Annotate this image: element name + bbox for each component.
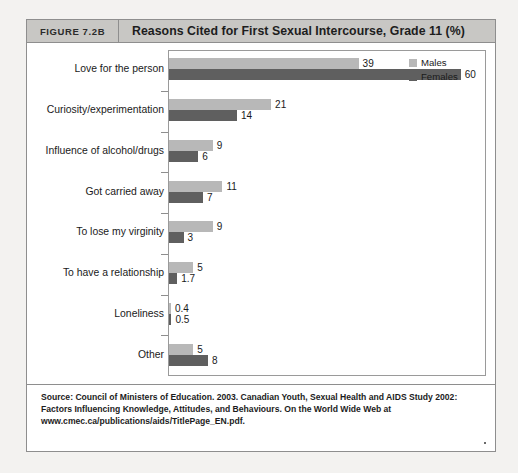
bar-pair: 51.7 [169,262,203,284]
legend-label-females: Females [421,71,458,82]
chart-legend: Males Females [409,57,458,82]
bar-value-label: 0.4 [175,303,189,314]
bar-group: Got carried away117 [27,172,486,213]
bar-value-label: 0.5 [175,314,189,325]
axis-tick [161,295,168,296]
category-label: Got carried away [4,186,164,197]
bar-males: 9 [169,221,222,232]
bar-males: 0.4 [169,303,189,314]
bar-value-label: 3 [188,232,194,243]
axis-tick [161,132,168,133]
bar-value-label: 8 [212,355,218,366]
source-note: Source: Council of Ministers of Educatio… [41,391,481,428]
bar-females: 7 [169,192,237,203]
bar-rect [169,303,171,314]
bar-females: 3 [169,232,222,243]
bar-rows: Love for the person3960Curiosity/experim… [27,50,486,376]
bar-group: To lose my virginity93 [27,213,486,254]
category-label: Loneliness [4,308,164,319]
bar-females: 8 [169,355,217,366]
axis-tick [161,91,168,92]
bar-value-label: 1.7 [181,273,195,284]
bar-value-label: 14 [241,110,252,121]
bar-group: Influence of alcohol/drugs96 [27,132,486,173]
bar-females: 14 [169,110,286,121]
bar-value-label: 5 [197,262,203,273]
bar-rect [169,273,177,284]
bar-group: Other58 [27,335,486,376]
figure-number: FIGURE 7.2B [27,20,119,42]
bar-rect [169,314,171,325]
bar-value-label: 9 [217,140,223,151]
legend-swatch-females-icon [409,73,417,81]
legend-swatch-males-icon [409,59,417,67]
bar-rect [169,355,208,366]
bar-rect [169,192,203,203]
category-label: Curiosity/experimentation [4,104,164,115]
bar-pair: 96 [169,140,222,162]
bar-pair: 93 [169,221,222,243]
bar-females: 6 [169,151,222,162]
bar-rect [169,232,184,243]
bar-value-label: 11 [226,181,236,192]
bar-value-label: 60 [465,69,476,80]
bar-value-label: 21 [275,99,286,110]
bar-rect [169,58,359,69]
legend-item-males: Males [409,57,458,68]
category-label: To lose my virginity [4,226,164,237]
bar-pair: 117 [169,181,237,203]
bar-group: To have a relationship51.7 [27,254,486,295]
bar-pair: 2114 [169,99,286,121]
bar-rect [169,262,193,273]
figure-frame: FIGURE 7.2B Reasons Cited for First Sexu… [26,19,496,452]
category-label: To have a relationship [4,267,164,278]
bar-group: Loneliness0.40.5 [27,295,486,336]
bar-males: 5 [169,262,203,273]
bar-females: 0.5 [169,314,189,325]
legend-label-males: Males [421,57,447,68]
figure-title: Reasons Cited for First Sexual Intercour… [119,20,495,42]
bar-rect [169,151,198,162]
source-divider [27,384,495,385]
bar-males: 9 [169,140,222,151]
bar-rect [169,344,193,355]
bar-males: 21 [169,99,286,110]
category-label: Love for the person [4,63,164,74]
bar-males: 5 [169,344,217,355]
category-label: Influence of alcohol/drugs [4,145,164,156]
bar-females: 1.7 [169,273,203,284]
axis-tick [161,254,168,255]
bar-rect [169,140,213,151]
bar-pair: 58 [169,344,217,366]
figure-header: FIGURE 7.2B Reasons Cited for First Sexu… [27,20,495,43]
bar-rect [169,110,237,121]
bar-males: 11 [169,181,237,192]
bar-value-label: 6 [202,151,208,162]
chart-area: Love for the person3960Curiosity/experim… [27,43,495,383]
axis-tick [161,213,168,214]
bar-value-label: 39 [363,58,374,69]
figure-container: FIGURE 7.2B Reasons Cited for First Sexu… [0,0,518,473]
category-label: Other [4,349,164,360]
bar-value-label: 9 [217,221,223,232]
bar-pair: 0.40.5 [169,303,189,325]
axis-tick [161,172,168,173]
bar-rect [169,221,213,232]
bar-group: Curiosity/experimentation2114 [27,91,486,132]
page-marker-dot [484,442,486,444]
bar-value-label: 5 [197,344,203,355]
axis-tick [161,335,168,336]
bar-rect [169,181,222,192]
legend-item-females: Females [409,71,458,82]
bar-rect [169,99,271,110]
bar-value-label: 7 [207,192,213,203]
